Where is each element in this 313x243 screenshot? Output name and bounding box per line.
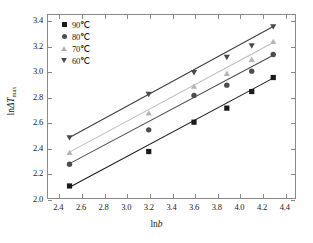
- y-tick-label: 3.0: [14, 66, 43, 76]
- x-tick-label: 3.0: [121, 202, 131, 212]
- data-point: [270, 39, 276, 44]
- fit-line: [70, 55, 274, 163]
- data-point: [270, 24, 276, 29]
- legend-label: 80℃: [72, 32, 90, 42]
- fit-line: [70, 42, 274, 152]
- series-70℃: [66, 39, 276, 155]
- legend-marker-shape: [62, 22, 67, 27]
- x-tick-label: 3.6: [189, 202, 199, 212]
- data-point: [66, 135, 72, 140]
- data-point: [191, 93, 196, 98]
- plot-area: 90℃80℃70℃60℃: [47, 14, 296, 199]
- x-tick-label: 4.0: [234, 202, 244, 212]
- y-tick: [48, 200, 52, 201]
- chart-figure: lnΔTmax lnb 2.42.62.83.03.23.43.63.84.04…: [0, 0, 313, 243]
- legend: 90℃80℃70℃60℃: [59, 19, 90, 66]
- legend-item-60[interactable]: 60℃: [59, 55, 90, 66]
- y-axis-title-prefix: ln: [6, 108, 16, 115]
- y-tick-label: 2.2: [14, 168, 43, 178]
- data-point: [191, 120, 196, 125]
- x-tick-label: 3.4: [166, 202, 176, 212]
- x-tick-label: 3.8: [212, 202, 222, 212]
- y-tick-label: 3.2: [14, 41, 43, 51]
- legend-marker-shape: [61, 58, 67, 63]
- legend-marker-square-icon: [59, 19, 72, 30]
- data-point: [249, 68, 254, 73]
- data-point: [224, 71, 230, 76]
- data-point: [224, 55, 230, 60]
- data-point: [224, 82, 229, 87]
- x-axis-title-italic: b: [158, 219, 163, 229]
- data-point: [271, 75, 276, 80]
- x-tick-label: 2.4: [53, 202, 63, 212]
- y-tick-label: 2.6: [14, 117, 43, 127]
- data-point: [67, 183, 72, 188]
- data-point: [146, 127, 151, 132]
- y-tick-right: [291, 200, 295, 201]
- legend-item-80[interactable]: 80℃: [59, 31, 90, 42]
- series-80℃: [67, 52, 276, 167]
- y-tick-label: 3.4: [14, 15, 43, 25]
- data-point: [67, 162, 72, 167]
- legend-marker-triangle-down-icon: [59, 55, 72, 66]
- data-point: [249, 89, 254, 94]
- legend-marker-triangle-up-icon: [59, 43, 72, 54]
- legend-label: 90℃: [72, 20, 90, 30]
- data-point: [249, 43, 255, 48]
- x-tick-label: 4.2: [257, 202, 267, 212]
- x-axis-title: lnb: [0, 219, 313, 229]
- legend-marker-circle-icon: [59, 31, 72, 42]
- series-60℃: [66, 24, 276, 140]
- legend-label: 70℃: [72, 44, 90, 54]
- fit-line: [70, 78, 274, 187]
- data-point: [224, 106, 229, 111]
- legend-label: 60℃: [72, 56, 90, 66]
- legend-marker-shape: [62, 34, 67, 39]
- data-point: [191, 70, 197, 75]
- x-axis-title-prefix: ln: [151, 219, 158, 229]
- legend-item-70[interactable]: 70℃: [59, 43, 90, 54]
- y-tick-label: 2.4: [14, 143, 43, 153]
- x-tick-label: 2.8: [99, 202, 109, 212]
- data-point: [146, 149, 151, 154]
- legend-marker-shape: [61, 46, 67, 51]
- legend-item-90[interactable]: 90℃: [59, 19, 90, 30]
- series-90℃: [67, 75, 276, 189]
- x-tick-label: 3.2: [144, 202, 154, 212]
- y-tick-label: 2.8: [14, 92, 43, 102]
- data-point: [146, 92, 152, 97]
- x-tick-label: 4.4: [280, 202, 290, 212]
- x-tick-label: 2.6: [76, 202, 86, 212]
- data-point: [249, 57, 255, 62]
- fit-line: [70, 26, 274, 137]
- y-tick-label: 2.0: [14, 194, 43, 204]
- data-point: [271, 52, 276, 57]
